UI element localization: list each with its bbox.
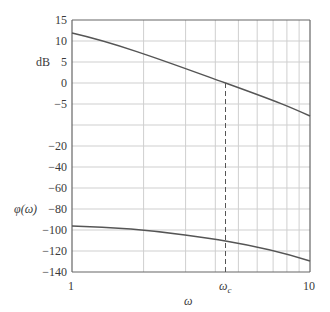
x-tick-10: 10: [303, 279, 315, 293]
y-label-phase: φ(ω): [14, 202, 37, 216]
tick-15: 15: [55, 13, 67, 27]
tick-5: 5: [61, 55, 67, 69]
x-tick-omega-c: ωc: [219, 279, 231, 295]
omega-c-subscript: c: [227, 285, 231, 295]
tick-10: 10: [55, 34, 67, 48]
phi-arg: (ω): [21, 202, 37, 216]
x-tick-1: 1: [68, 279, 74, 293]
tick-0: 0: [61, 76, 67, 90]
tick-minus60: −60: [48, 181, 67, 195]
bode-plot: 15 10 5 0 −5 −20 −40 −60 −80 −100 −120 −…: [0, 0, 330, 312]
grid: [72, 20, 310, 272]
phase-curve: [72, 226, 310, 261]
tick-minus140: −140: [42, 265, 67, 279]
y-tick-labels: 15 10 5 0 −5 −20 −40 −60 −80 −100 −120 −…: [42, 13, 67, 279]
y-label-magnitude: dB: [36, 55, 50, 69]
omega-c-main: ω: [219, 279, 227, 293]
tick-minus80: −80: [48, 202, 67, 216]
tick-minus20: −20: [48, 139, 67, 153]
tick-minus40: −40: [48, 160, 67, 174]
tick-minus100: −100: [42, 223, 67, 237]
x-axis-label: ω: [184, 294, 192, 308]
tick-minus5: −5: [54, 97, 67, 111]
tick-minus120: −120: [42, 244, 67, 258]
